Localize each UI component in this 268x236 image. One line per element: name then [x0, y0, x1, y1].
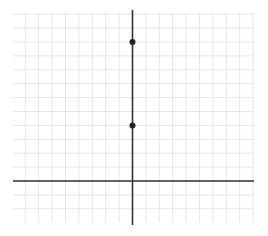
data-point: [130, 39, 136, 45]
coordinate-plane: [0, 0, 268, 236]
data-point: [130, 122, 136, 128]
